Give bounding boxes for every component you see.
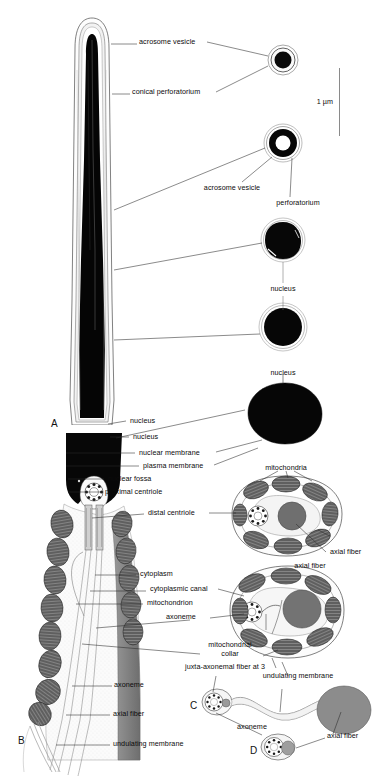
panel-a-sperm-head xyxy=(70,18,114,425)
label-juxta-axonemal-fiber: juxta-axonemal fiber at 3 xyxy=(185,663,265,671)
label-conical-perforatorium: conical perforatorium xyxy=(132,88,200,96)
label-nuclear-fossa: nuclear fossa xyxy=(108,475,151,483)
label-acrosome-vesicle-top: acrosome vesicle xyxy=(139,38,195,46)
label-axial-fiber-xsection-upper: axial fiber xyxy=(330,548,361,556)
label-cytoplasmic-canal: cytoplasmic canal xyxy=(150,585,208,593)
label-acrosome-vesicle-mid: acrosome vesicle xyxy=(204,184,260,192)
label-axial-fiber-xsection-lower: axial fiber xyxy=(294,562,325,570)
xsection-c xyxy=(202,689,232,715)
label-axoneme-xsection: axoneme xyxy=(166,613,196,621)
label-nucleus-head-2: nucleus xyxy=(133,433,158,441)
label-undulating-membrane-panel-b: undulating membrane xyxy=(113,740,183,748)
label-axoneme-panel-b: axoneme xyxy=(114,681,144,689)
scale-bar-label: 1 µm xyxy=(317,98,333,106)
panel-cd-flagellum xyxy=(202,686,371,760)
xsection-acrosome-perforatorium xyxy=(264,124,302,162)
label-axoneme-panel-cd: axoneme xyxy=(237,723,267,731)
label-nucleus-head: nucleus xyxy=(130,417,155,425)
label-axial-fiber-panel-d: axial fiber xyxy=(327,732,358,740)
xsection-nucleus-lower xyxy=(259,303,307,351)
label-plasma-membrane: plasma membrane xyxy=(143,462,203,470)
label-cytoplasm: cytoplasm xyxy=(140,570,173,578)
label-mitochondrion: mitochondrion xyxy=(147,599,193,607)
label-nuclear-membrane: nuclear membrane xyxy=(139,449,200,457)
label-axial-fiber-panel-b: axial fiber xyxy=(113,710,144,718)
label-proximal-centriole: proximal centriole xyxy=(105,488,162,496)
xsection-nucleus-mid xyxy=(261,218,305,262)
panel-label-d: D xyxy=(250,745,257,756)
label-nucleus-large: nucleus xyxy=(270,369,295,377)
label-perforatorium: perforatorium xyxy=(276,199,319,207)
illustration-svg xyxy=(0,0,381,777)
label-mitochondria: mitochondria xyxy=(265,464,307,472)
figure-canvas: 1 µm acrosome vesicle conical perforator… xyxy=(0,0,381,777)
xsection-d xyxy=(261,734,295,760)
panel-label-a: A xyxy=(51,418,58,429)
xsection-mitochondrial-collar-upper xyxy=(232,476,342,556)
label-nucleus-mid: nucleus xyxy=(270,285,295,293)
label-mitochondrial-collar-line2: collar xyxy=(221,650,238,658)
scale-bar-line xyxy=(339,68,340,136)
label-distal-centriole: distal centriole xyxy=(148,509,195,517)
panel-label-c: C xyxy=(190,700,197,711)
label-undulating-membrane-xsection: undulating membrane xyxy=(263,672,333,680)
xsection-acrosome-tip xyxy=(268,45,298,75)
xsection-nucleus-large xyxy=(248,383,322,444)
panel-label-b: B xyxy=(18,735,25,746)
